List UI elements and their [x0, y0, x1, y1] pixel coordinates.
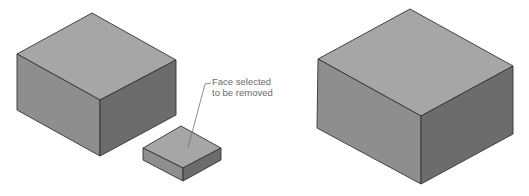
- small-box-selected-face: [143, 126, 221, 181]
- diagram-svg: [0, 0, 529, 196]
- annotation-line-2: to be removed: [212, 88, 273, 99]
- annotation-label: Face selected to be removed: [212, 77, 273, 98]
- diagram-canvas: Face selected to be removed: [0, 0, 529, 196]
- large-box-result: [317, 9, 513, 184]
- annotation-line-1: Face selected: [212, 77, 273, 88]
- large-box-left: [17, 13, 176, 156]
